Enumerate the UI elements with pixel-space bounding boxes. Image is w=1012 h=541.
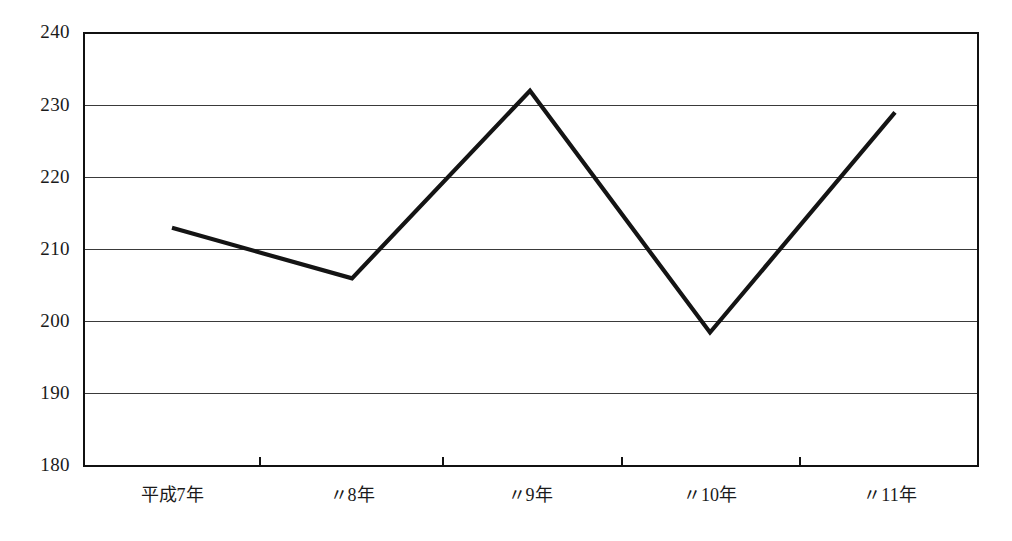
x-tick-label: 〃10年 bbox=[683, 485, 737, 505]
y-tick-label: 180 bbox=[40, 454, 70, 475]
y-tick-label: 190 bbox=[40, 382, 70, 403]
y-tick-label: 230 bbox=[40, 94, 70, 115]
chart-background bbox=[0, 0, 1012, 541]
chart-canvas: 180190200210220230240 平成7年〃8年〃9年〃10年〃11年 bbox=[0, 0, 1012, 541]
x-tick-label: 平成7年 bbox=[141, 485, 204, 505]
y-tick-label: 200 bbox=[40, 310, 70, 331]
x-tick-label: 〃11年 bbox=[863, 485, 916, 505]
x-tick-label: 〃9年 bbox=[508, 485, 553, 505]
y-tick-label: 210 bbox=[40, 238, 70, 259]
x-tick-label: 〃8年 bbox=[330, 485, 375, 505]
y-tick-label: 220 bbox=[40, 166, 70, 187]
y-tick-label: 240 bbox=[40, 21, 70, 42]
line-chart-figure: 180190200210220230240 平成7年〃8年〃9年〃10年〃11年 bbox=[0, 0, 1012, 541]
